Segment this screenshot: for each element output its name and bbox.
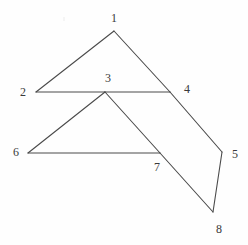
edge-5-8 <box>213 152 222 212</box>
vertex-label-3: 3 <box>105 72 111 84</box>
edge-4-5 <box>170 92 222 152</box>
vertex-label-1: 1 <box>111 12 117 24</box>
edge-1-2 <box>36 31 114 92</box>
edge-7-8 <box>160 153 213 212</box>
vertex-label-5: 5 <box>232 148 238 160</box>
paper-speck-1 <box>63 17 65 21</box>
edge-1-4 <box>114 31 170 92</box>
edge-3-6 <box>28 92 105 153</box>
edges-group <box>28 31 222 212</box>
vertex-label-6: 6 <box>13 146 19 158</box>
vertex-label-8: 8 <box>216 223 222 235</box>
vertex-label-2: 2 <box>20 86 26 98</box>
edge-3-7 <box>105 92 160 153</box>
vertex-label-7: 7 <box>154 161 160 173</box>
vertex-label-4: 4 <box>184 83 190 95</box>
figure-container: 12345678 <box>0 0 248 245</box>
figure-line-drawing <box>0 0 248 245</box>
